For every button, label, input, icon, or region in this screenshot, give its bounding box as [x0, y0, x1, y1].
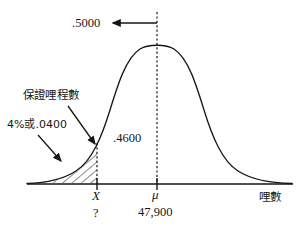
axis-unit-label: 哩數 — [259, 192, 281, 204]
bell-curve — [27, 45, 292, 183]
lower-probability-label: .4600 — [113, 132, 141, 145]
alpha-area-label: 4%或.0400 — [7, 119, 67, 130]
mu-tick-label: μ — [152, 188, 159, 201]
upper-probability-label: .5000 — [72, 17, 100, 30]
arrow-pointer-icon-alpha — [38, 135, 61, 161]
x-tick-label: X — [92, 189, 100, 202]
mu-value-label: 47,900 — [138, 206, 172, 219]
guarantee-mileage-label: 保證哩程數 — [23, 90, 79, 102]
x-value-label: ? — [93, 207, 99, 220]
arrow-pointer-icon-guarantee — [68, 106, 95, 144]
